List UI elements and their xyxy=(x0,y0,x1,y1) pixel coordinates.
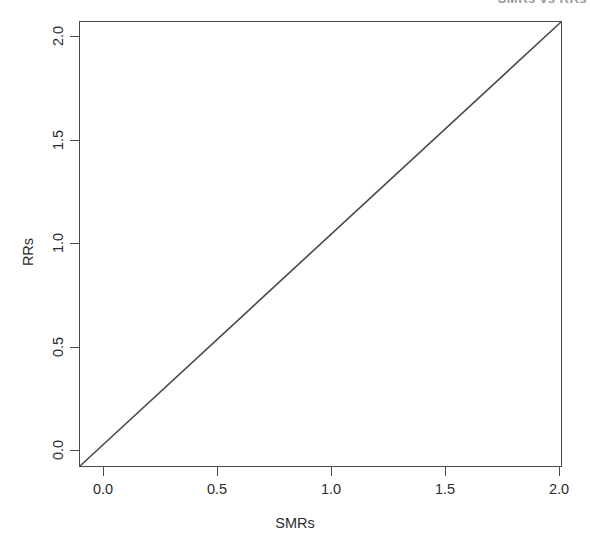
x-tick-mark xyxy=(559,467,560,476)
x-tick-mark xyxy=(331,467,332,476)
y-tick-mark xyxy=(70,347,79,348)
x-tick-label: 1.5 xyxy=(435,481,455,497)
y-tick-label: 0.0 xyxy=(50,440,66,460)
y-tick-label: 1.0 xyxy=(50,233,66,253)
plot-data-area xyxy=(79,21,562,467)
x-tick-mark xyxy=(445,467,446,476)
y-tick-label: 2.0 xyxy=(50,26,66,46)
y-tick-label: 1.5 xyxy=(50,130,66,150)
x-tick-label: 1.0 xyxy=(321,481,341,497)
x-tick-label: 2.0 xyxy=(549,481,569,497)
identity-line-series xyxy=(80,22,561,466)
x-tick-label: 0.0 xyxy=(93,481,113,497)
x-tick-label: 0.5 xyxy=(207,481,227,497)
x-tick-mark xyxy=(103,467,104,476)
y-tick-mark xyxy=(70,140,79,141)
y-tick-mark xyxy=(70,450,79,451)
x-axis-label: SMRs xyxy=(0,515,590,531)
chart-figure: SMRs vs RRs 0.0 0.5 1.0 1.5 2.0 2.0 1.5 … xyxy=(0,0,590,554)
y-axis-label: RRs xyxy=(20,238,36,266)
y-tick-mark xyxy=(70,36,79,37)
y-tick-mark xyxy=(70,243,79,244)
x-tick-mark xyxy=(217,467,218,476)
y-tick-label: 0.5 xyxy=(50,337,66,357)
cropped-header-text: SMRs vs RRs xyxy=(355,0,587,5)
